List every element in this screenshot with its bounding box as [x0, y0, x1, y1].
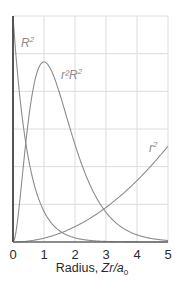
curve-r2: [13, 146, 168, 242]
x-tick-label: 4: [133, 247, 140, 262]
curve-label: R2: [21, 35, 35, 50]
curve-label: r2: [149, 140, 158, 155]
x-tick-labels: 012345: [9, 247, 171, 262]
x-tick-label: 1: [40, 247, 47, 262]
x-tick-label: 5: [164, 247, 171, 262]
x-axis-label: Radius, Zr/a0: [56, 261, 129, 277]
chart-canvas: 012345 R2r²R2r2 Radius, Zr/a0: [0, 0, 183, 286]
curve-label: r²R2: [61, 67, 83, 82]
x-tick-label: 2: [71, 247, 78, 262]
grid-lines: [13, 16, 168, 242]
radial-distribution-chart: 012345 R2r²R2r2 Radius, Zr/a0: [0, 0, 183, 286]
x-tick-label: 3: [102, 247, 109, 262]
curve-r2r2: [13, 62, 168, 242]
x-tick-label: 0: [9, 247, 16, 262]
